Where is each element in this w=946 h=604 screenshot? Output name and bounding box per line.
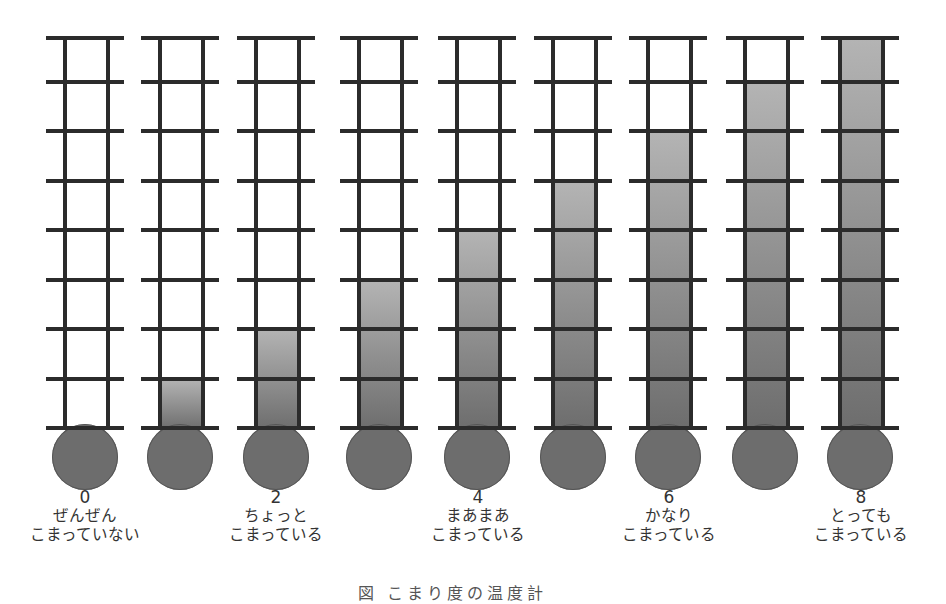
scale-rung	[237, 426, 315, 430]
thermometer-1	[141, 0, 221, 530]
scale-rung	[340, 327, 418, 331]
thermometer-2	[237, 0, 317, 530]
scale-rung	[141, 278, 219, 282]
thermometer-bulb	[147, 424, 213, 490]
left-upright	[158, 38, 162, 430]
scale-rung	[821, 278, 899, 282]
scale-rung	[534, 36, 612, 40]
scale-rung	[46, 129, 124, 133]
scale-rung	[821, 80, 899, 84]
scale-rung	[237, 36, 315, 40]
scale-rung	[340, 80, 418, 84]
scale-rung	[438, 327, 516, 331]
scale-rung	[821, 327, 899, 331]
thermometer-4	[438, 0, 518, 530]
right-upright	[400, 38, 404, 430]
scale-rung	[534, 228, 612, 232]
scale-rung	[237, 327, 315, 331]
scale-rung	[46, 377, 124, 381]
scale-label-line1: かなり	[589, 507, 749, 526]
scale-rung	[237, 179, 315, 183]
scale-rung	[141, 129, 219, 133]
scale-rung	[629, 377, 707, 381]
scale-rung	[534, 327, 612, 331]
scale-rung	[726, 179, 804, 183]
figure-caption: 図 こまり度の温度計	[358, 580, 547, 604]
scale-rung	[438, 228, 516, 232]
scale-value: 4	[398, 488, 558, 507]
scale-rung	[726, 327, 804, 331]
thermometer-5	[534, 0, 614, 530]
scale-rung	[821, 36, 899, 40]
scale-rung	[726, 129, 804, 133]
scale-rung	[46, 80, 124, 84]
scale-rung	[141, 377, 219, 381]
thermometer-bulb	[827, 424, 893, 490]
scale-rung	[340, 228, 418, 232]
scale-label-line1: とっても	[781, 507, 941, 526]
scale-rung	[340, 426, 418, 430]
scale-rung	[46, 179, 124, 183]
scale-rung	[46, 278, 124, 282]
scale-rung	[726, 80, 804, 84]
scale-rung	[629, 426, 707, 430]
thermometer-bulb	[732, 424, 798, 490]
scale-rung	[340, 377, 418, 381]
scale-label-2: 2 ちょっと こまっている	[196, 488, 356, 545]
right-upright	[498, 38, 502, 430]
scale-label-line2: こまっていない	[5, 526, 165, 545]
scale-label-line1: ぜんぜん	[5, 507, 165, 526]
scale-rung	[726, 278, 804, 282]
scale-rung	[141, 327, 219, 331]
thermometer-6	[629, 0, 709, 530]
scale-rung	[340, 278, 418, 282]
scale-rung	[46, 36, 124, 40]
scale-label-line2: こまっている	[196, 526, 356, 545]
scale-rung	[629, 80, 707, 84]
scale-label-line1: ちょっと	[196, 507, 356, 526]
thermometer-fill	[159, 379, 202, 430]
scale-rung	[141, 426, 219, 430]
right-upright	[689, 38, 693, 430]
scale-label-line2: こまっている	[398, 526, 558, 545]
scale-rung	[237, 80, 315, 84]
scale-rung	[438, 36, 516, 40]
scale-rung	[629, 129, 707, 133]
left-upright	[646, 38, 650, 430]
thermometer-fill	[358, 280, 401, 430]
scale-rung	[141, 36, 219, 40]
scale-rung	[141, 80, 219, 84]
scale-rung	[726, 426, 804, 430]
scale-label-line2: こまっている	[781, 526, 941, 545]
thermometer-0	[46, 0, 126, 530]
scale-rung	[46, 426, 124, 430]
left-upright	[357, 38, 361, 430]
scale-rung	[237, 377, 315, 381]
scale-rung	[141, 179, 219, 183]
scale-rung	[237, 129, 315, 133]
scale-rung	[726, 36, 804, 40]
scale-rung	[726, 377, 804, 381]
scale-rung	[438, 377, 516, 381]
scale-label-line1: まあまあ	[398, 507, 558, 526]
right-upright	[201, 38, 205, 430]
scale-rung	[821, 129, 899, 133]
scale-rung	[340, 36, 418, 40]
scale-rung	[534, 426, 612, 430]
scale-rung	[438, 129, 516, 133]
thermometer-fill	[839, 38, 882, 430]
scale-rung	[629, 179, 707, 183]
scale-rung	[438, 426, 516, 430]
thermometer-bulb	[243, 424, 309, 490]
scale-rung	[340, 179, 418, 183]
scale-rung	[438, 80, 516, 84]
scale-rung	[340, 129, 418, 133]
scale-rung	[438, 179, 516, 183]
left-upright	[743, 38, 747, 430]
scale-label-line2: こまっている	[589, 526, 749, 545]
thermometer-bulb	[52, 424, 118, 490]
scale-rung	[141, 228, 219, 232]
left-upright	[838, 38, 842, 430]
left-upright	[551, 38, 555, 430]
thermometer-bulb	[346, 424, 412, 490]
